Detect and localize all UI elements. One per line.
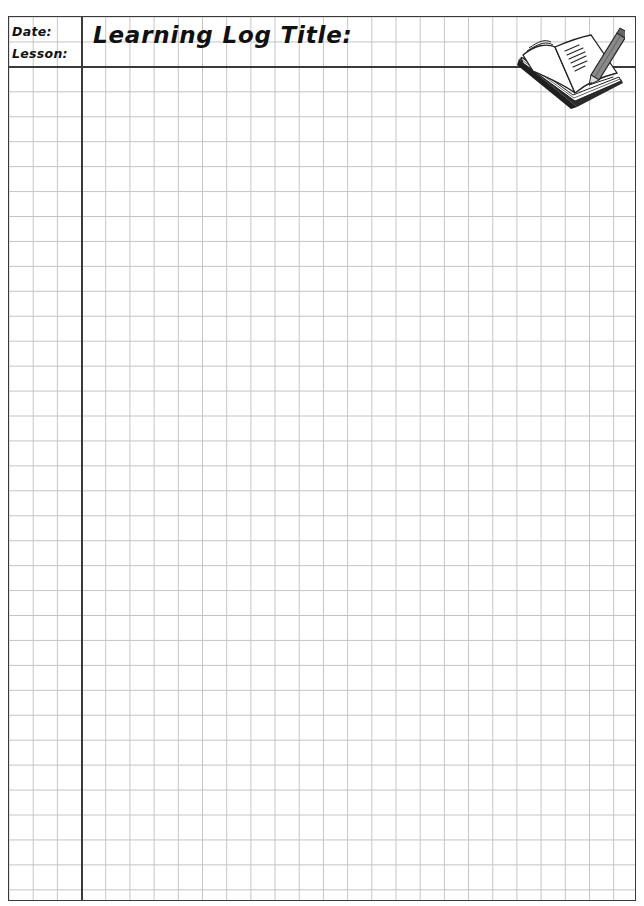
writing-area[interactable] [83,68,635,900]
title-field[interactable] [369,25,509,63]
date-field[interactable] [61,23,83,43]
learning-log-sheet: Date: Lesson: Learning Log Title: [8,16,636,901]
date-label: Date: [12,24,52,39]
page-title: Learning Log Title: [93,22,353,48]
lesson-label: Lesson: [12,46,68,61]
open-book-with-pencil-icon [513,21,625,111]
